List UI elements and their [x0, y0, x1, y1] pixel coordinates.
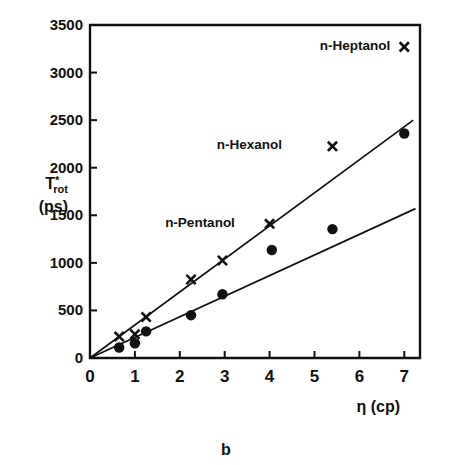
- y-tick-label-5: 2500: [50, 111, 83, 128]
- data-point-circle-0: [114, 342, 124, 352]
- y-axis-title-units: (ps): [39, 198, 68, 215]
- data-point-circle-3: [186, 310, 196, 320]
- lower-fit-line: [90, 209, 416, 358]
- annotation-2: n-Pentanol: [165, 215, 235, 230]
- x-tick-label-3: 3: [220, 367, 229, 386]
- x-tick-label-4: 4: [265, 367, 275, 386]
- data-point-x-7: [400, 42, 409, 51]
- x-tick-label-2: 2: [175, 367, 184, 386]
- y-axis-title: T*rot (ps): [39, 174, 69, 215]
- data-point-x-0: [115, 332, 124, 341]
- plot-frame-box: [90, 25, 420, 358]
- x-tick-label-1: 1: [130, 367, 139, 386]
- data-point-circle-4: [217, 289, 227, 299]
- data-point-circle-7: [399, 128, 409, 138]
- figure-container: 01234567 0500100015002000250030003500 n-…: [0, 0, 452, 465]
- y-axis-title-symbol: T*rot: [45, 174, 68, 195]
- y-tick-label-1: 500: [58, 301, 83, 318]
- x-tick-label-0: 0: [85, 367, 94, 386]
- x-axis-title: η (cp): [356, 398, 400, 415]
- series-annotations: n-Heptanoln-Hexanoln-Pentanol: [165, 38, 390, 230]
- data-point-x-4: [218, 256, 227, 265]
- data-point-circle-1: [130, 338, 140, 348]
- series-upper-x-markers: [115, 42, 409, 341]
- data-point-x-6: [328, 142, 337, 151]
- upper-fit-line: [90, 120, 413, 358]
- y-tick-label-0: 0: [75, 349, 83, 366]
- y-axis-title-subscript: rot: [53, 183, 68, 195]
- annotation-0: n-Heptanol: [320, 38, 391, 53]
- x-axis-tick-labels: 01234567: [85, 367, 409, 386]
- data-point-circle-2: [141, 326, 151, 336]
- y-tick-label-7: 3500: [50, 16, 83, 33]
- y-tick-label-6: 3000: [50, 64, 83, 81]
- data-point-x-2: [142, 312, 151, 321]
- scatter-plot: 01234567 0500100015002000250030003500 n-…: [0, 0, 452, 465]
- fit-lines: [90, 120, 416, 358]
- annotation-1: n-Hexanol: [217, 137, 282, 152]
- plot-frame: [90, 25, 420, 358]
- data-point-circle-6: [327, 224, 337, 234]
- series-lower-circle-markers: [114, 128, 410, 352]
- x-tick-label-7: 7: [400, 367, 409, 386]
- data-point-circle-5: [267, 245, 277, 255]
- y-tick-label-2: 1000: [50, 254, 83, 271]
- x-tick-label-6: 6: [355, 367, 364, 386]
- figure-caption: b: [221, 441, 231, 458]
- x-tick-label-5: 5: [310, 367, 319, 386]
